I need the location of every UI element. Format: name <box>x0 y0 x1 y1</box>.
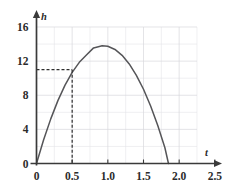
y-tick-label: 8 <box>23 89 29 101</box>
parabola-chart-svg: 00.51.01.52.02.5 0481216 t h <box>0 0 229 195</box>
x-tick-label: 1.0 <box>101 170 116 182</box>
chart-figure: 00.51.01.52.02.5 0481216 t h <box>0 0 229 195</box>
x-tick-label: 0 <box>34 170 40 182</box>
x-tick-label: 0.5 <box>65 170 80 182</box>
y-tick-label: 16 <box>17 21 29 33</box>
y-tick-label: 12 <box>17 55 29 67</box>
y-tick-label: 4 <box>23 123 29 135</box>
chart-background <box>0 0 229 195</box>
x-tick-label: 2.5 <box>208 170 223 182</box>
y-tick-label: 0 <box>23 158 29 170</box>
x-tick-label: 1.5 <box>136 170 151 182</box>
x-tick-label: 2.0 <box>172 170 187 182</box>
y-axis-name-label: h <box>41 11 47 22</box>
